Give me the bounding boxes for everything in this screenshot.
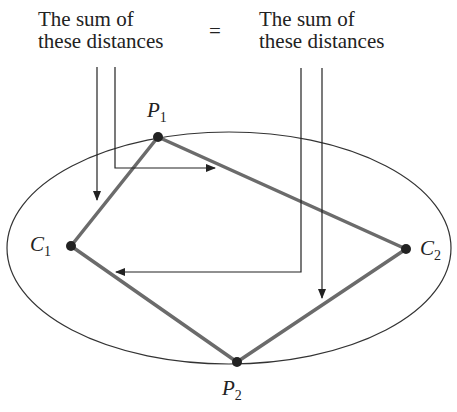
right-label-line1: The sum of [259, 8, 384, 30]
right-label-line2: these distances [259, 30, 384, 52]
equals-sign: = [209, 20, 221, 42]
p1-name: P [147, 98, 160, 122]
label-p2: P2 [222, 376, 242, 404]
arrows [97, 67, 322, 298]
p2-name: P [222, 376, 235, 400]
left-label: The sum of these distances [38, 8, 163, 52]
point-dots [66, 132, 411, 367]
c1-sub: 1 [44, 244, 51, 259]
c1-name: C [30, 232, 44, 256]
c2-sub: 2 [434, 248, 441, 263]
left-label-line2: these distances [38, 30, 163, 52]
label-c2: C2 [420, 236, 441, 264]
p2-sub: 2 [235, 388, 242, 403]
c2-name: C [420, 236, 434, 260]
distance-segments [71, 137, 406, 362]
right-label: The sum of these distances [259, 8, 384, 52]
p1-sub: 1 [160, 110, 167, 125]
label-p1: P1 [147, 98, 167, 126]
ellipse-diagram [0, 0, 457, 412]
label-c1: C1 [30, 232, 51, 260]
left-label-line1: The sum of [38, 8, 163, 30]
